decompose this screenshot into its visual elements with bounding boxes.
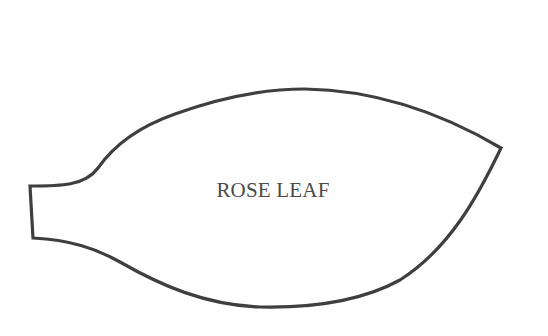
rose-leaf-outline bbox=[0, 0, 548, 336]
leaf-title: ROSE LEAF bbox=[216, 178, 329, 202]
leaf-label: ROSE LEAF bbox=[0, 178, 548, 203]
